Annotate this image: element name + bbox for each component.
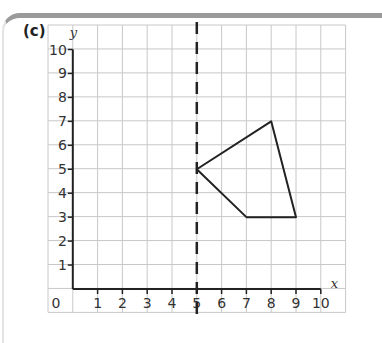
y-tick-label: 8	[58, 89, 67, 105]
x-tick-label: 4	[168, 295, 177, 311]
y-tick-label: 5	[58, 161, 67, 177]
y-tick-label: 7	[58, 113, 67, 129]
y-tick-label: 2	[58, 233, 67, 249]
y-axis-label: y	[69, 25, 78, 40]
tick-labels: 1234567891012345678910	[49, 42, 330, 312]
origin-label: 0	[52, 295, 61, 311]
x-tick-label: 3	[143, 295, 152, 311]
y-tick-label: 3	[58, 209, 67, 225]
x-tick-label: 10	[312, 295, 330, 311]
y-tick-label: 6	[58, 137, 67, 153]
x-tick-label: 8	[267, 295, 276, 311]
y-tick-label: 4	[58, 185, 67, 201]
y-tick-label: 10	[49, 42, 67, 58]
x-tick-label: 6	[217, 295, 226, 311]
x-tick-label: 7	[242, 295, 251, 311]
y-tick-label: 9	[58, 65, 67, 81]
y-tick-label: 1	[58, 257, 67, 273]
x-tick-label: 9	[292, 295, 301, 311]
x-tick-label: 1	[93, 295, 102, 311]
x-axis-label: x	[331, 276, 339, 291]
x-tick-label: 2	[118, 295, 127, 311]
